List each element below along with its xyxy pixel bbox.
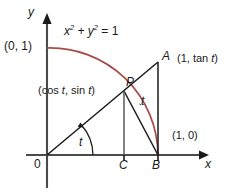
unit-circle-diagram: y x 0 x2 + y2 = 1 (0, 1) (1, tan t) A P … <box>0 0 234 194</box>
cos-argument-t: t <box>62 84 65 96</box>
sin-argument-t: t <box>88 84 91 96</box>
equation-plus-y: + y <box>74 24 94 38</box>
point-label-C: C <box>119 159 128 171</box>
equation-equals-one: = 1 <box>98 24 118 38</box>
x-axis-label: x <box>205 158 211 170</box>
point-label-P: P <box>126 76 134 88</box>
point-label-1-tan-t: (1, tan t) <box>177 53 218 64</box>
circle-equation-label: x2 + y2 = 1 <box>64 24 118 37</box>
point-label-A: A <box>162 50 170 62</box>
origin-label: 0 <box>34 158 41 170</box>
angle-label-t-origin: t <box>79 136 82 148</box>
tan-argument-t: t <box>211 52 214 64</box>
y-axis-label: y <box>28 6 34 18</box>
y-axis <box>42 13 51 188</box>
point-label-cos-t-sin-t: (cos t, sin t) <box>38 85 95 96</box>
point-label-B: B <box>152 159 160 171</box>
point-label-0-1: (0, 1) <box>4 40 32 52</box>
angle-label-t-inner: t <box>141 95 144 107</box>
ray-OA <box>47 62 158 155</box>
x-axis <box>26 150 209 159</box>
point-label-1-0: (1, 0) <box>172 130 198 141</box>
